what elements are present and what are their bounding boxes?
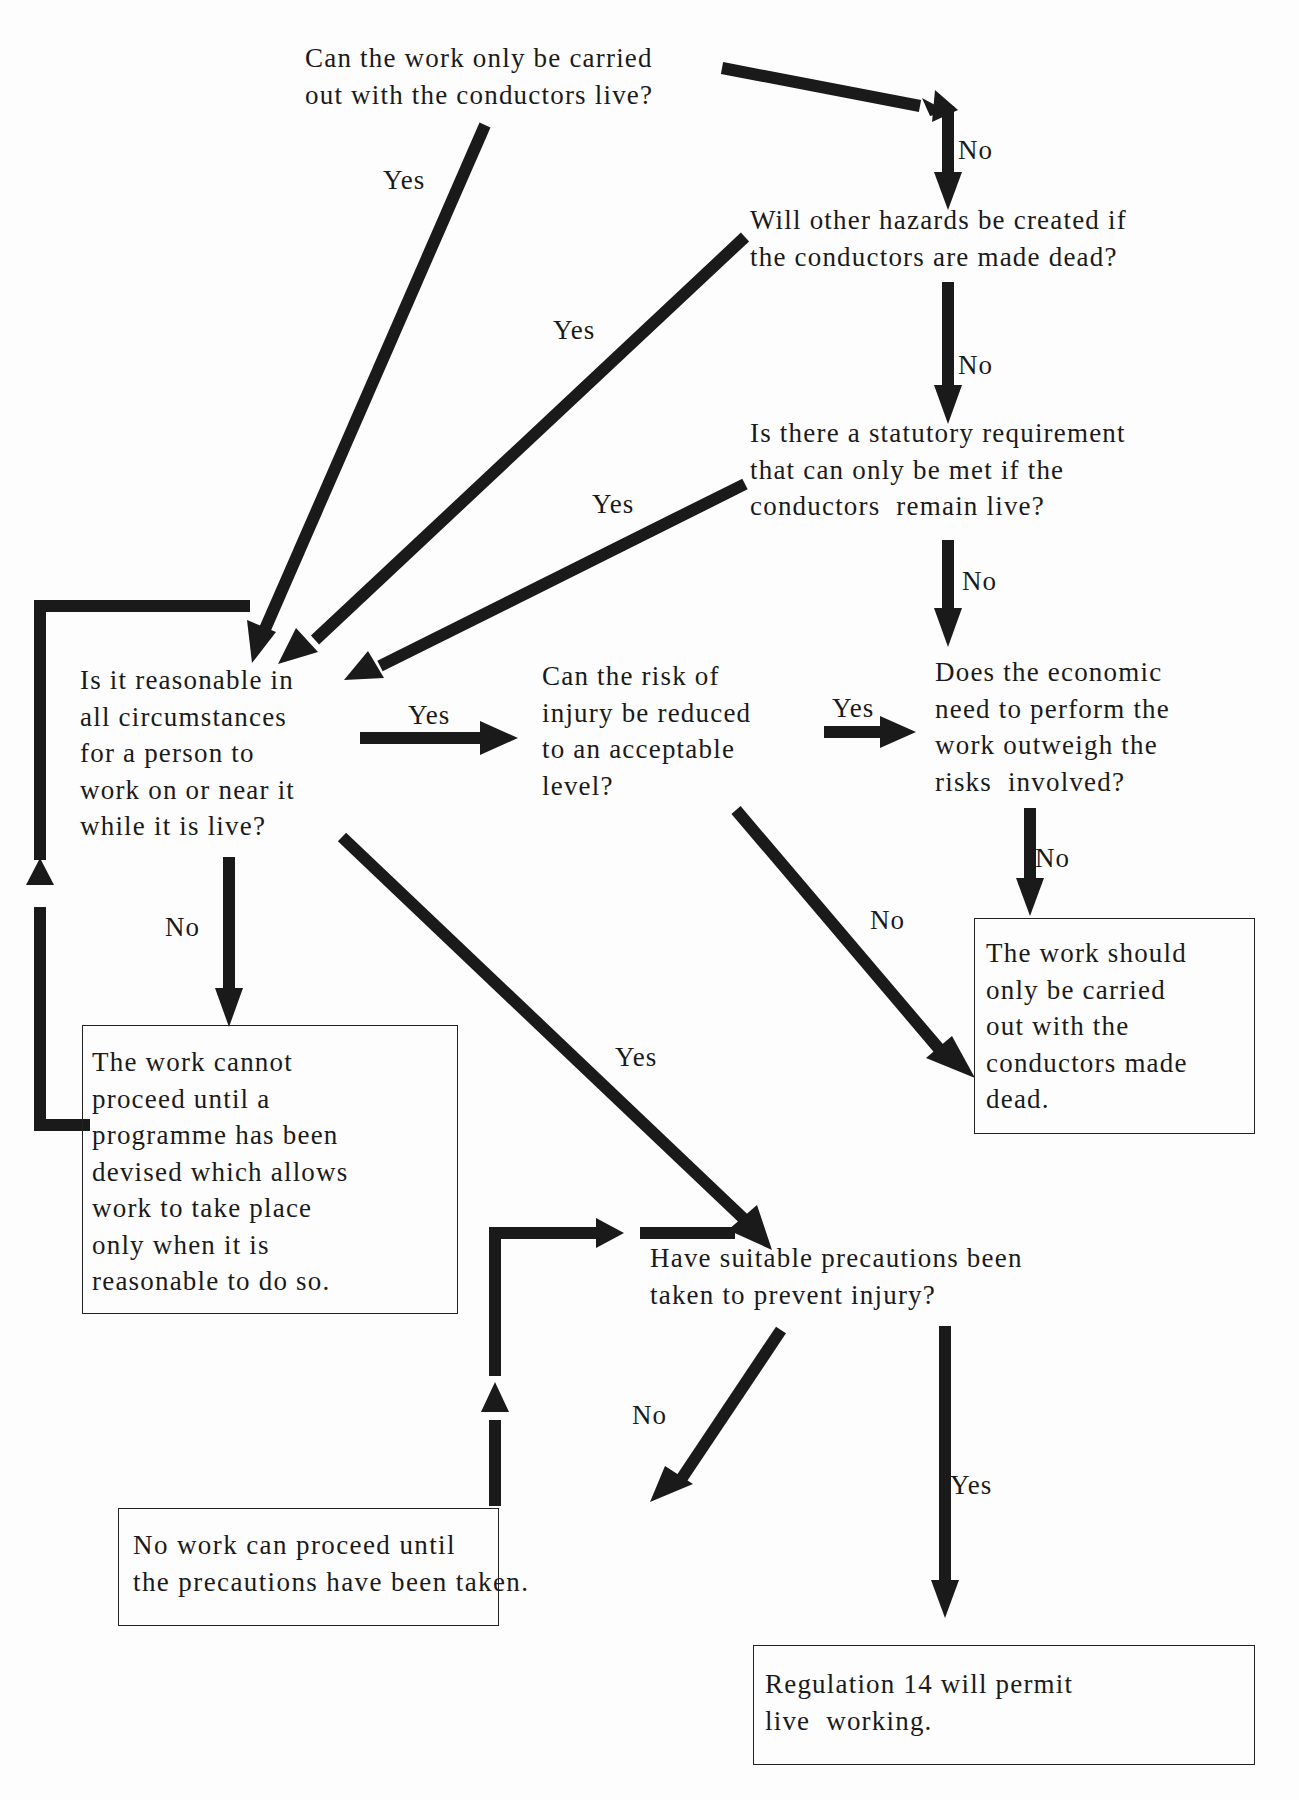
edge-label-reasonable-no: No (165, 912, 200, 942)
edge-label-precautions-yes: Yes (950, 1470, 992, 1500)
question-reasonable: Is it reasonable in all circumstances fo… (80, 662, 295, 845)
edge-label-economic-no: No (1035, 843, 1070, 873)
outcome-cannot-proceed-text: The work cannot proceed until a programm… (92, 1044, 457, 1300)
edge-label-reasonable-yes-down: Yes (615, 1042, 657, 1072)
outcome-dead-text: The work should only be carried out with… (986, 935, 1254, 1118)
edge-label-reduce-risk-yes: Yes (832, 693, 874, 723)
edge-label-only-live-yes: Yes (383, 165, 425, 195)
edge-label-statutory-yes: Yes (592, 489, 634, 519)
outcome-box-no-work: No work can proceed until the precaution… (118, 1508, 499, 1626)
edge-label-reasonable-yes-right: Yes (408, 700, 450, 730)
edge-label-reduce-risk-no: No (870, 905, 905, 935)
outcome-box-regulation: Regulation 14 will permit live working. (753, 1645, 1255, 1765)
question-other-hazards: Will other hazards be created if the con… (750, 202, 1127, 275)
edge-label-other-hazards-no: No (958, 350, 993, 380)
flowchart-canvas: Can the work only be carried out with th… (0, 0, 1299, 1800)
question-reduce-risk: Can the risk of injury be reduced to an … (542, 658, 751, 804)
question-statutory: Is there a statutory requirement that ca… (750, 415, 1126, 525)
edge-label-other-hazards-yes: Yes (553, 315, 595, 345)
outcome-regulation-text: Regulation 14 will permit live working. (765, 1666, 1254, 1739)
edge-label-precautions-no: No (632, 1400, 667, 1430)
question-economic: Does the economic need to perform the wo… (935, 654, 1170, 800)
outcome-no-work-text: No work can proceed until the precaution… (133, 1527, 498, 1600)
outcome-box-cannot-proceed: The work cannot proceed until a programm… (82, 1025, 458, 1314)
edge-only-live-yes (262, 125, 485, 636)
question-precautions: Have suitable precautions been taken to … (650, 1240, 1023, 1313)
edge-label-statutory-no: No (962, 566, 997, 596)
edge-only-live-no (722, 68, 920, 106)
edge-label-only-live-no: No (958, 135, 993, 165)
question-only-live: Can the work only be carried out with th… (305, 40, 653, 113)
outcome-box-dead: The work should only be carried out with… (974, 918, 1255, 1134)
